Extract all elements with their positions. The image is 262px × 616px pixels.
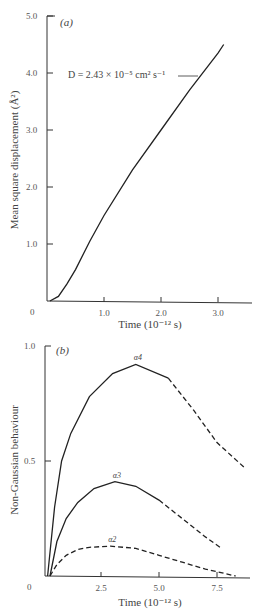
y-tick-label: 3.0 <box>26 125 38 135</box>
panel-b-x-axis <box>45 576 250 578</box>
x-tick-label: 7.5 <box>211 583 223 593</box>
panel-b-label: (b) <box>56 344 69 357</box>
x-tick-label: 2.5 <box>95 583 107 593</box>
curve-α3-solid <box>50 482 159 576</box>
curve-α4-dashed <box>168 378 245 468</box>
curve-α2-dashed <box>50 546 236 576</box>
y-tick-label: 4.0 <box>26 68 38 78</box>
x-tick-label: 2.0 <box>155 308 167 318</box>
panel-a-ylabel: Mean square displacement (Å²) <box>8 90 21 229</box>
msd-curve <box>50 45 224 302</box>
x-tick-label: 1.0 <box>98 308 110 318</box>
panel-a-origin: 0 <box>30 307 35 317</box>
y-tick-label: 1.0 <box>26 239 38 249</box>
figure: 1.02.03.04.05.0 1.02.03.0 (a) 0 Time (10… <box>0 0 262 616</box>
x-tick-label: 5.0 <box>153 583 165 593</box>
curve-α4-solid <box>48 364 169 576</box>
panel-a-x-axis <box>47 301 252 303</box>
series-label: α4 <box>134 353 142 362</box>
panel-b-ylabel: Non-Gaussian behaviour <box>8 405 20 515</box>
y-tick-label: 1.0 <box>24 341 36 351</box>
curve-α3-dashed <box>159 500 222 548</box>
panel-b-xlabel: Time (10⁻¹² s) <box>118 596 182 609</box>
diffusion-annotation: D = 2.43 × 10⁻⁵ cm² s⁻¹ <box>68 69 165 80</box>
panel-a-label: (a) <box>60 16 73 29</box>
y-tick-label: 0.5 <box>24 456 36 466</box>
panel-b-origin: 0 <box>27 582 32 592</box>
panel-b: 0.51.0 2.55.07.5 (b) 0 Time (10⁻¹² s) No… <box>8 341 250 609</box>
panel-a-xlabel: Time (10⁻¹² s) <box>118 318 182 331</box>
y-tick-label: 2.0 <box>26 182 38 192</box>
series-label: α2 <box>108 535 116 544</box>
x-tick-label: 3.0 <box>212 308 224 318</box>
y-tick-label: 5.0 <box>26 11 38 21</box>
series-label: α3 <box>113 471 121 480</box>
panel-a: 1.02.03.04.05.0 1.02.03.0 (a) 0 Time (10… <box>8 11 252 331</box>
